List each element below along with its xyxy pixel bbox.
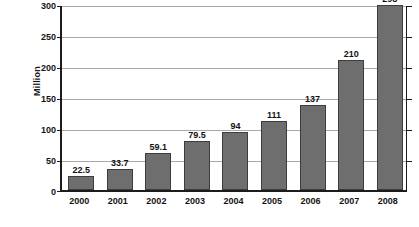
bar-value-label: 79.5 bbox=[188, 130, 206, 140]
y-tick-label: 100 bbox=[22, 125, 56, 135]
bar-slot: 210 bbox=[332, 6, 371, 190]
y-axis-tick-labels: 050100150200250300 bbox=[22, 6, 56, 192]
bar-slot: 33.7 bbox=[101, 6, 140, 190]
x-axis-tick-labels: 200020012002200320042005200620072008 bbox=[60, 196, 407, 216]
bar[interactable] bbox=[107, 169, 133, 190]
bars-group: 22.533.759.179.594111137210298 bbox=[62, 6, 406, 190]
bar-slot: 79.5 bbox=[178, 6, 217, 190]
y-tick-label: 200 bbox=[22, 63, 56, 73]
gridline bbox=[62, 191, 406, 192]
x-tick-label: 2004 bbox=[223, 196, 243, 206]
bar[interactable] bbox=[338, 60, 364, 190]
x-tick-label: 2003 bbox=[185, 196, 205, 206]
y-tick-label: 50 bbox=[22, 156, 56, 166]
bar-value-label: 33.7 bbox=[111, 158, 129, 168]
y-tick-label: 300 bbox=[22, 1, 56, 11]
y-tick-mark bbox=[57, 191, 62, 192]
bar[interactable] bbox=[300, 105, 326, 190]
bar-value-label: 111 bbox=[267, 110, 281, 120]
bar-slot: 111 bbox=[255, 6, 294, 190]
bar-slot: 59.1 bbox=[139, 6, 178, 190]
x-tick-label: 2006 bbox=[301, 196, 321, 206]
bar[interactable] bbox=[184, 141, 210, 190]
bar-value-label: 94 bbox=[230, 121, 240, 131]
bar-value-label: 210 bbox=[344, 49, 359, 59]
bar[interactable] bbox=[68, 176, 94, 190]
x-tick-label: 2002 bbox=[146, 196, 166, 206]
bar-value-label: 59.1 bbox=[150, 142, 168, 152]
y-tick-label: 0 bbox=[22, 187, 56, 197]
x-tick-label: 2001 bbox=[108, 196, 128, 206]
bar[interactable] bbox=[222, 132, 248, 190]
bar-chart: Million 050100150200250300 22.533.759.17… bbox=[0, 0, 419, 227]
bar-slot: 22.5 bbox=[62, 6, 101, 190]
bar-slot: 298 bbox=[370, 6, 409, 190]
x-tick-label: 2007 bbox=[339, 196, 359, 206]
bar[interactable] bbox=[261, 121, 287, 190]
bar-slot: 94 bbox=[216, 6, 255, 190]
bar-value-label: 22.5 bbox=[73, 165, 91, 175]
bar-value-label: 137 bbox=[305, 94, 320, 104]
x-tick-label: 2005 bbox=[262, 196, 282, 206]
y-tick-label: 250 bbox=[22, 32, 56, 42]
bar[interactable] bbox=[145, 153, 171, 190]
x-tick-label: 2008 bbox=[378, 196, 398, 206]
bar-value-label: 298 bbox=[382, 0, 397, 4]
y-tick-label: 150 bbox=[22, 94, 56, 104]
bar-slot: 137 bbox=[293, 6, 332, 190]
x-tick-label: 2000 bbox=[69, 196, 89, 206]
bar[interactable] bbox=[377, 5, 403, 190]
plot-area: 22.533.759.179.594111137210298 bbox=[60, 6, 407, 192]
